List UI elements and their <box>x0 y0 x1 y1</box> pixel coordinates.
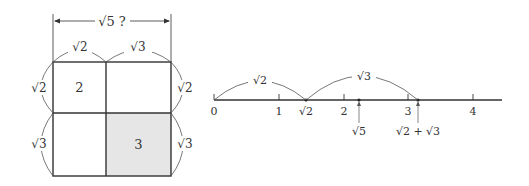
top-left-width: √2 <box>72 40 87 54</box>
number-line: 0 1 2 3 4 √2 √5 √2 + √3 √2 √3 <box>211 70 503 138</box>
tick-label-0: 0 <box>211 105 218 118</box>
point-label-sum: √2 + √3 <box>396 125 440 138</box>
diagram-canvas: √5 ? √2 √3 √2 √3 √2 √3 2 3 0 1 <box>0 0 529 186</box>
tick-label-2: 2 <box>341 105 348 118</box>
arrow-left-icon <box>54 19 60 24</box>
square-figure: √5 ? √2 √3 √2 √3 √2 √3 2 3 <box>28 14 196 176</box>
right-top-height: √2 <box>177 81 192 95</box>
point-label-sqrt2: √2 <box>299 105 313 118</box>
left-bottom-height: √3 <box>31 137 46 151</box>
arrow-up-icon <box>416 101 420 106</box>
top-dimension-label: √5 ? <box>98 14 126 29</box>
tick-label-3: 3 <box>405 105 412 118</box>
right-bottom-height: √3 <box>177 137 192 151</box>
cell-label-2: 2 <box>75 80 83 95</box>
arc-label-sqrt3: √3 <box>357 70 371 83</box>
top-right-width: √3 <box>130 40 145 54</box>
cell-label-3: 3 <box>134 137 142 152</box>
arrow-up-icon <box>357 101 361 106</box>
arrow-right-icon <box>164 19 170 24</box>
left-top-height: √2 <box>31 81 46 95</box>
point-label-sqrt5: √5 <box>352 125 366 138</box>
tick-label-1: 1 <box>276 105 283 118</box>
arc-label-sqrt2: √2 <box>253 74 267 87</box>
tick-label-4: 4 <box>470 105 477 118</box>
